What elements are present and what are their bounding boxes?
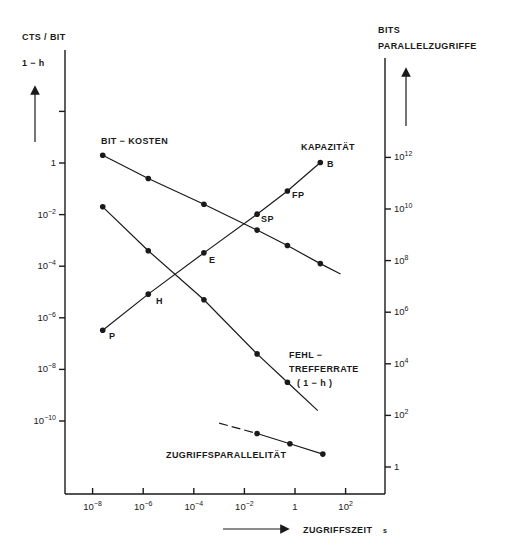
right-tick-label: 104 [394, 357, 409, 369]
left-axis-subtitle: 1 − h [22, 58, 45, 68]
point-label-p: P [109, 331, 115, 341]
left-axis-ticks: 110−210−410−610−810−10 [34, 111, 65, 426]
right-tick-label: 108 [394, 254, 409, 266]
right-tick-label: 102 [394, 408, 409, 420]
dashed-extension [219, 423, 257, 433]
data-point [285, 243, 291, 249]
bit-kosten-label: BIT − KOSTEN [101, 136, 168, 146]
x-tick-label: 1 [292, 501, 297, 512]
x-tick-label: 10−8 [83, 500, 102, 512]
data-point [100, 327, 106, 333]
point-label-sp: SP [261, 214, 274, 224]
data-point [254, 351, 260, 357]
data-point [318, 261, 324, 267]
point-label-fp: FP [292, 190, 304, 200]
data-point [285, 188, 291, 194]
x-axis-ticks: 10−810−610−410−21102 [83, 488, 353, 512]
series-0 [100, 152, 341, 273]
series-line [103, 207, 318, 411]
data-point [287, 441, 293, 447]
data-point [100, 204, 106, 210]
data-point [320, 451, 326, 457]
x-tick-label: 102 [338, 500, 353, 512]
right-axis-subtitle: PARALLELZUGRIFFE [378, 41, 477, 51]
zugriffsparallelitaet-label: ZUGRIFFSPARALLELITÄT [166, 450, 286, 460]
right-tick-label: 1010 [394, 202, 412, 214]
right-tick-label: 106 [394, 305, 409, 317]
right-tick-label: 1 [394, 461, 399, 472]
data-point [201, 297, 207, 303]
data-point [145, 176, 151, 182]
data-point [254, 211, 260, 217]
left-tick-label: 10−10 [34, 414, 57, 426]
left-tick-label: 10−2 [37, 208, 56, 220]
point-label-e: E [209, 255, 215, 265]
left-tick-label: 1 [51, 157, 56, 168]
data-point [201, 201, 207, 207]
x-axis-title: ZUGRIFFSZEIT [303, 525, 372, 535]
point-label-h: H [156, 296, 163, 306]
x-tick-label: 10−6 [134, 500, 153, 512]
data-point [145, 248, 151, 254]
data-point [254, 431, 260, 437]
x-axis-unit: s [383, 527, 387, 534]
left-axis-title: CTS / BIT [22, 32, 66, 42]
chart-canvas: CTS / BIT 1 − h BITS PARALLELZUGRIFFE 11… [0, 0, 513, 559]
data-point [285, 380, 291, 386]
data-point [318, 160, 324, 166]
fehltrefferrate-label-line1: FEHL − [289, 350, 323, 360]
series-2 [100, 204, 318, 411]
data-point [145, 291, 151, 297]
x-tick-label: 10−4 [185, 500, 204, 512]
fehltrefferrate-label-line2: TREFFERRATE [289, 364, 359, 374]
x-tick-label: 10−2 [235, 500, 254, 512]
series-lines [100, 152, 341, 456]
left-tick-label: 10−8 [37, 362, 56, 374]
data-point [254, 227, 260, 233]
series-line [103, 155, 341, 274]
right-tick-label: 1012 [394, 150, 412, 162]
left-tick-label: 10−4 [37, 259, 56, 271]
point-label-b: B [327, 159, 334, 169]
right-axis-title: BITS [378, 25, 400, 35]
kapazitaet-label: KAPAZITÄT [301, 142, 355, 152]
data-point [100, 152, 106, 158]
fehltrefferrate-label-line3: ( 1 − h ) [297, 378, 332, 388]
left-tick-label: 10−6 [37, 311, 56, 323]
right-axis-ticks: 101210101081061041021 [385, 150, 412, 472]
data-point [201, 250, 207, 256]
